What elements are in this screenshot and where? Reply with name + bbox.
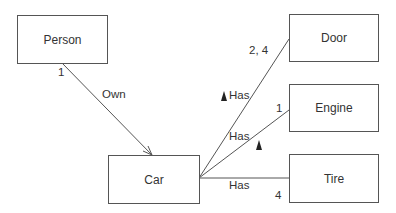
multiplicity-label: 4 [275,190,281,202]
class-name: Person [43,33,81,47]
multiplicity-label: 1 [58,67,64,79]
association-name-label: Own [102,89,126,101]
association-name-label: Has [229,90,249,102]
class-engine[interactable]: Engine [289,84,379,132]
direction-triangle-icon [256,140,262,150]
own-association-line [62,63,152,155]
class-name: Door [321,31,347,45]
multiplicity-label: 1 [276,103,282,115]
multiplicity-label: 2, 4 [249,45,268,57]
class-person[interactable]: Person [17,15,108,64]
class-car[interactable]: Car [108,155,200,204]
direction-triangle-icon [221,91,227,101]
class-name: Tire [324,172,344,186]
has-engine-line [199,110,289,178]
class-name: Engine [315,101,352,115]
class-door[interactable]: Door [289,14,379,62]
class-name: Car [144,173,163,187]
association-name-label: Has [229,131,249,143]
association-name-label: Has [229,180,249,192]
class-tire[interactable]: Tire [289,154,379,203]
